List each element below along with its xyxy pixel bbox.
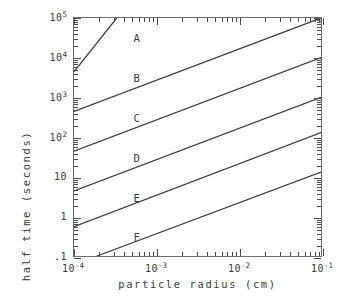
y-tick-minor-7e0 <box>74 184 78 185</box>
y-tick-right-minor-8e4 <box>317 22 321 23</box>
x-tick-top-major-1e-3 <box>157 18 158 25</box>
y-tick-right-minor-8e3 <box>317 62 321 63</box>
y-tick-right-minor-9e-1 <box>317 220 321 221</box>
y-tick-minor-8e1 <box>74 142 78 143</box>
x-tick-minor-5e-4 <box>132 252 133 256</box>
y-tick-right-minor-5e4 <box>317 30 321 31</box>
x-tick-label-1em3: 10-3 <box>145 262 167 274</box>
x-tick-label-1em4: 10-4 <box>62 262 84 274</box>
y-tick-right-minor-4e4 <box>317 34 321 35</box>
curve-c <box>74 58 321 151</box>
curve-a <box>74 18 117 72</box>
y-tick-minor-5e0 <box>74 190 78 191</box>
y-tick-right-minor-5e0 <box>317 190 321 191</box>
x-tick-minor-3e-2 <box>280 252 281 256</box>
x-tick-top-minor-9e-4 <box>153 18 154 22</box>
x-tick-major-1e-2 <box>240 249 241 256</box>
y-tick-minor-2e-1 <box>74 246 78 247</box>
y-tick-minor-2e4 <box>74 46 78 47</box>
y-tick-major-1e4 <box>74 58 81 59</box>
y-tick-right-minor-4e3 <box>317 74 321 75</box>
y-tick-right-minor-7e1 <box>317 144 321 145</box>
x-tick-top-minor-4e-3 <box>207 18 208 22</box>
y-tick-minor-9e2 <box>74 100 78 101</box>
x-tick-top-major-1e-2 <box>240 18 241 25</box>
y-tick-minor-5e1 <box>74 150 78 151</box>
y-tick-right-minor-7e-1 <box>317 224 321 225</box>
x-tick-top-major-1e-4 <box>74 18 75 25</box>
y-tick-minor-4e0 <box>74 194 78 195</box>
curve-label-e: E <box>134 193 140 204</box>
y-tick-right-minor-4e0 <box>317 194 321 195</box>
y-axis-title: half time (seconds) <box>20 126 32 286</box>
y-tick-right-minor-8e-1 <box>317 222 321 223</box>
x-tick-minor-9e-2 <box>319 252 320 256</box>
y-tick-minor-8e0 <box>74 182 78 183</box>
y-tick-major-1e1 <box>74 178 81 179</box>
y-tick-right-minor-7e2 <box>317 104 321 105</box>
y-tick-minor-3e0 <box>74 199 78 200</box>
y-tick-minor-3e1 <box>74 159 78 160</box>
y-tick-right-minor-9e0 <box>317 180 321 181</box>
x-tick-top-minor-6e-4 <box>139 18 140 22</box>
y-tick-minor-6e1 <box>74 147 78 148</box>
y-tick-label-10: 10 <box>33 172 67 182</box>
y-tick-minor-6e2 <box>74 107 78 108</box>
y-tick-right-minor-8e0 <box>317 182 321 183</box>
y-tick-label-1e5: 105 <box>33 11 67 23</box>
y-tick-right-major-1e-1 <box>314 258 321 259</box>
x-tick-minor-8e-2 <box>315 252 316 256</box>
y-tick-minor-5e2 <box>74 110 78 111</box>
curve-f <box>97 172 321 256</box>
x-tick-top-minor-7e-3 <box>227 18 228 22</box>
curve-label-c: C <box>134 113 140 124</box>
x-tick-top-minor-9e-3 <box>236 18 237 22</box>
x-tick-major-1e-4 <box>74 249 75 256</box>
x-tick-minor-5e-2 <box>298 252 299 256</box>
y-tick-minor-4e2 <box>74 114 78 115</box>
y-tick-label-1e4: 104 <box>33 51 67 63</box>
x-axis-title: particle radius (cm) <box>73 278 322 290</box>
y-tick-right-minor-7e0 <box>317 184 321 185</box>
y-tick-minor-7e3 <box>74 64 78 65</box>
x-tick-top-minor-2e-2 <box>265 18 266 22</box>
y-tick-right-major-1e4 <box>314 58 321 59</box>
y-tick-right-minor-2e2 <box>317 126 321 127</box>
y-tick-minor-8e3 <box>74 62 78 63</box>
x-tick-minor-2e-4 <box>99 252 100 256</box>
y-tick-minor-6e3 <box>74 67 78 68</box>
x-tick-top-minor-8e-4 <box>149 18 150 22</box>
x-tick-top-minor-9e-2 <box>319 18 320 22</box>
x-tick-minor-2e-3 <box>182 252 183 256</box>
y-tick-right-minor-9e3 <box>317 60 321 61</box>
y-tick-major-1e2 <box>74 138 81 139</box>
y-tick-right-minor-5e-1 <box>317 230 321 231</box>
x-tick-top-minor-8e-2 <box>315 18 316 22</box>
y-tick-label-0p1: .1 <box>33 252 67 262</box>
x-tick-top-minor-8e-3 <box>232 18 233 22</box>
x-tick-top-minor-7e-4 <box>144 18 145 22</box>
x-tick-minor-2e-2 <box>265 252 266 256</box>
x-tick-top-minor-3e-4 <box>114 18 115 22</box>
x-tick-top-minor-3e-3 <box>197 18 198 22</box>
x-tick-minor-3e-3 <box>197 252 198 256</box>
x-tick-minor-7e-4 <box>144 252 145 256</box>
curve-label-b: B <box>134 73 140 84</box>
y-tick-minor-4e4 <box>74 34 78 35</box>
y-tick-right-minor-3e0 <box>317 199 321 200</box>
x-tick-top-minor-5e-3 <box>215 18 216 22</box>
y-tick-minor-7e-1 <box>74 224 78 225</box>
x-tick-minor-4e-4 <box>124 252 125 256</box>
y-tick-right-minor-3e4 <box>317 39 321 40</box>
y-tick-right-major-1e3 <box>314 98 321 99</box>
y-tick-right-minor-4e-1 <box>317 234 321 235</box>
y-tick-minor-5e-1 <box>74 230 78 231</box>
y-tick-minor-4e3 <box>74 74 78 75</box>
curve-e <box>74 132 321 226</box>
y-tick-minor-2e0 <box>74 206 78 207</box>
y-tick-label-1e3: 103 <box>33 91 67 103</box>
y-tick-right-minor-9e1 <box>317 140 321 141</box>
y-tick-right-minor-2e-1 <box>317 246 321 247</box>
y-tick-right-major-1e1 <box>314 178 321 179</box>
curve-label-d: D <box>134 153 140 164</box>
